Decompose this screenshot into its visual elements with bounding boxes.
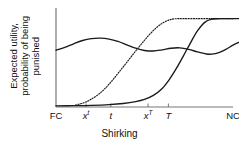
x-axis-label: Shirking [0, 128, 239, 139]
x-tick-label-nc: NC [226, 110, 239, 121]
x-tick-label-xt: xt [83, 110, 90, 121]
plot-area [0, 0, 239, 144]
chart-figure: Expected utility, probability of being p… [0, 0, 239, 144]
curve-probability-of-punishment-dotted [75, 19, 233, 105]
x-tick-label-fc: FC [50, 110, 63, 121]
data-curves [56, 19, 239, 106]
curve-probability-of-punishment-solid [56, 19, 219, 106]
x-tick-label-t: t [110, 110, 113, 121]
x-tick-label-xt: xT [144, 110, 153, 121]
x-tick-label-t: T [165, 110, 171, 121]
curve-expected-utility [56, 38, 239, 54]
axes [56, 8, 233, 107]
